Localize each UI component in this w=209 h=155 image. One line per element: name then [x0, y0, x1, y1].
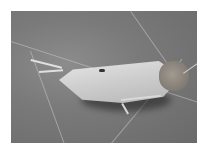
insect-head	[159, 61, 189, 91]
insect-tail	[39, 69, 63, 73]
photo	[11, 11, 197, 143]
wing-spot	[99, 69, 105, 72]
